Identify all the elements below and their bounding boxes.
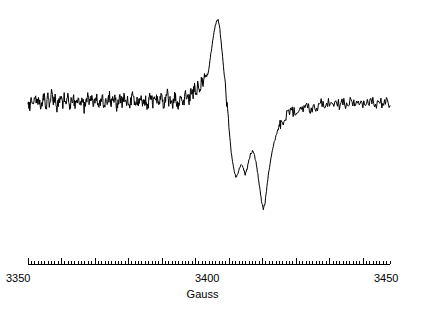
epr-spectrum-figure: 3350 3400 3450 Gauss [0, 0, 421, 310]
spectrum-trace-line [28, 19, 390, 209]
spectrum-trace-svg [0, 0, 421, 250]
tick-label-3400: 3400 [195, 272, 219, 285]
tick-label-3450: 3450 [374, 272, 398, 285]
tick-label-3350: 3350 [6, 272, 30, 285]
x-axis-area: 3350 3400 3450 Gauss [0, 250, 421, 310]
x-axis-ticks [28, 258, 390, 264]
x-axis-title: Gauss [0, 288, 421, 301]
plot-area [0, 0, 421, 250]
x-axis-title-text: Gauss [187, 288, 219, 300]
